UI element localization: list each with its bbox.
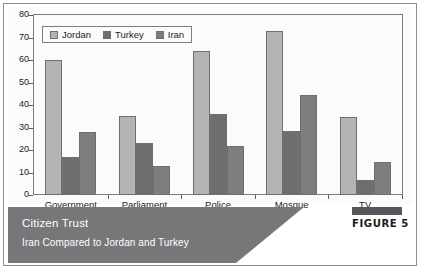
bar-iran-government bbox=[79, 132, 96, 195]
bar-turkey-mosque bbox=[283, 131, 300, 195]
x-tick-mark bbox=[181, 195, 182, 199]
figure-badge: FIGURE 5 bbox=[352, 207, 408, 230]
bar-turkey-government bbox=[62, 157, 79, 195]
legend-label: Turkey bbox=[115, 30, 144, 40]
legend-swatch-icon bbox=[50, 31, 58, 39]
x-tick-mark bbox=[108, 195, 109, 199]
bar-jordan-government bbox=[45, 60, 62, 195]
caption-text-group: Citizen Trust Iran Compared to Jordan an… bbox=[22, 216, 189, 250]
x-tick-mark bbox=[328, 195, 329, 199]
legend-item-turkey: Turkey bbox=[103, 30, 144, 40]
chart-legend: JordanTurkeyIran bbox=[42, 26, 192, 43]
bar-jordan-mosque bbox=[266, 31, 283, 195]
chart-panel: 01020304050607080 GovernmentParliamentPo… bbox=[8, 8, 412, 204]
bar-iran-tv bbox=[374, 162, 391, 195]
legend-label: Iran bbox=[168, 30, 184, 40]
figure-badge-label: FIGURE 5 bbox=[352, 217, 404, 230]
bar-jordan-parliament bbox=[119, 116, 136, 195]
legend-label: Jordan bbox=[62, 30, 91, 40]
figure-container: 01020304050607080 GovernmentParliamentPo… bbox=[0, 0, 421, 270]
bar-turkey-police bbox=[210, 114, 227, 195]
bar-turkey-parliament bbox=[136, 143, 153, 195]
legend-swatch-icon bbox=[103, 31, 111, 39]
bar-iran-parliament bbox=[153, 166, 170, 195]
figure-badge-bar bbox=[352, 207, 402, 215]
x-tick-mark bbox=[255, 195, 256, 199]
bar-jordan-tv bbox=[340, 117, 357, 195]
bar-jordan-police bbox=[193, 51, 210, 195]
bar-iran-mosque bbox=[300, 95, 317, 195]
legend-item-iran: Iran bbox=[156, 30, 184, 40]
legend-item-jordan: Jordan bbox=[50, 30, 91, 40]
bar-iran-police bbox=[227, 146, 244, 196]
caption-subtitle: Iran Compared to Jordan and Turkey bbox=[22, 236, 189, 250]
legend-swatch-icon bbox=[156, 31, 164, 39]
caption-title: Citizen Trust bbox=[22, 216, 189, 231]
bar-turkey-tv bbox=[357, 180, 374, 195]
x-tick-mark bbox=[402, 195, 403, 199]
